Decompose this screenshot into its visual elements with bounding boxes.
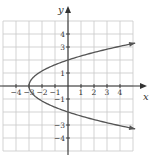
x-tick-label: 2 [92, 88, 97, 97]
y-tick-label: −3 [54, 121, 65, 130]
x-axis-arrow-icon [140, 83, 147, 89]
parabola-chart: x y −4−3−2−11234431−1−3−4 [0, 0, 149, 159]
x-tick-label: 4 [118, 88, 123, 97]
y-tick-label: −4 [54, 134, 65, 143]
y-tick-label: −1 [54, 95, 65, 104]
x-tick-label: −2 [36, 88, 47, 97]
x-tick-label: 1 [79, 88, 84, 97]
y-tick-label: 4 [60, 30, 65, 39]
y-axis-label: y [57, 4, 64, 15]
y-tick-label: 3 [60, 43, 65, 52]
x-tick-label: −4 [10, 88, 21, 97]
y-tick-label: 1 [60, 69, 65, 78]
y-axis-arrow-icon [65, 6, 71, 13]
x-tick-label: 3 [105, 88, 110, 97]
axes: x y [0, 4, 149, 155]
x-axis-label: x [143, 91, 149, 102]
